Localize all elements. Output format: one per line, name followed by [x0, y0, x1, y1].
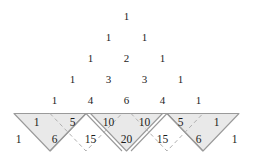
pascal-cell-r4-c2: 6 [124, 95, 130, 106]
pascal-cell-r5-c5: 1 [214, 117, 220, 129]
pascal-cell-r2-c2: 1 [160, 53, 166, 64]
pascal-cell-r2-c0: 1 [88, 53, 94, 64]
pascal-cell-r5-c2: 10 [103, 117, 115, 129]
pascal-cell-r4-c0: 1 [52, 95, 58, 106]
pascal-cell-r1-c0: 1 [106, 32, 112, 43]
pascal-cell-r4-c1: 4 [88, 95, 94, 106]
figure-canvas: 1 1 1 1 2 1 1 3 3 1 1 4 6 4 1 1 5 10 10 … [0, 0, 253, 158]
pascal-cell-r4-c4: 1 [196, 95, 202, 106]
pascal-cell-r6-c5: 6 [196, 134, 202, 146]
pascal-cell-r5-c3: 10 [139, 117, 151, 129]
pascal-cell-r6-c1: 6 [52, 134, 58, 146]
pascal-cell-r6-c4: 15 [157, 134, 169, 146]
pascal-cell-r4-c3: 4 [160, 95, 166, 106]
pascal-cell-r6-c6: 1 [232, 134, 238, 146]
pascal-cell-r5-c0: 1 [34, 117, 40, 129]
pascal-cell-r5-c1: 5 [70, 117, 76, 129]
pascal-cell-r6-c3: 20 [121, 134, 133, 146]
pascal-cell-r6-c2: 15 [85, 134, 97, 146]
pascal-cell-r3-c1: 3 [106, 74, 112, 85]
pascal-cell-r6-c0: 1 [16, 134, 22, 146]
pascal-cell-r1-c1: 1 [142, 32, 148, 43]
pascal-cell-r3-c3: 1 [178, 74, 184, 85]
pascal-cell-r3-c2: 3 [142, 74, 148, 85]
pascal-cell-r0-c0: 1 [124, 11, 130, 22]
pascal-cell-r2-c1: 2 [124, 53, 130, 64]
pascal-cell-r3-c0: 1 [70, 74, 76, 85]
pascal-cell-r5-c4: 5 [178, 117, 184, 129]
